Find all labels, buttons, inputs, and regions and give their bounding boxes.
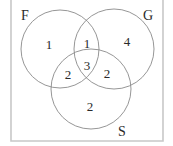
region-g-and-s-only: 2 <box>104 66 111 81</box>
region-f-and-s-only: 2 <box>65 67 72 82</box>
set-s-label: S <box>118 124 126 139</box>
set-f-label: F <box>21 8 29 23</box>
region-g-only: 4 <box>124 34 131 49</box>
region-f-and-g-only: 1 <box>84 36 91 51</box>
set-g-label: G <box>143 8 153 23</box>
venn-diagram: F G S 1 1 4 3 2 2 2 <box>0 0 173 146</box>
region-f-and-g-and-s: 3 <box>84 58 91 73</box>
region-s-only: 2 <box>87 99 94 114</box>
region-f-only: 1 <box>46 37 53 52</box>
